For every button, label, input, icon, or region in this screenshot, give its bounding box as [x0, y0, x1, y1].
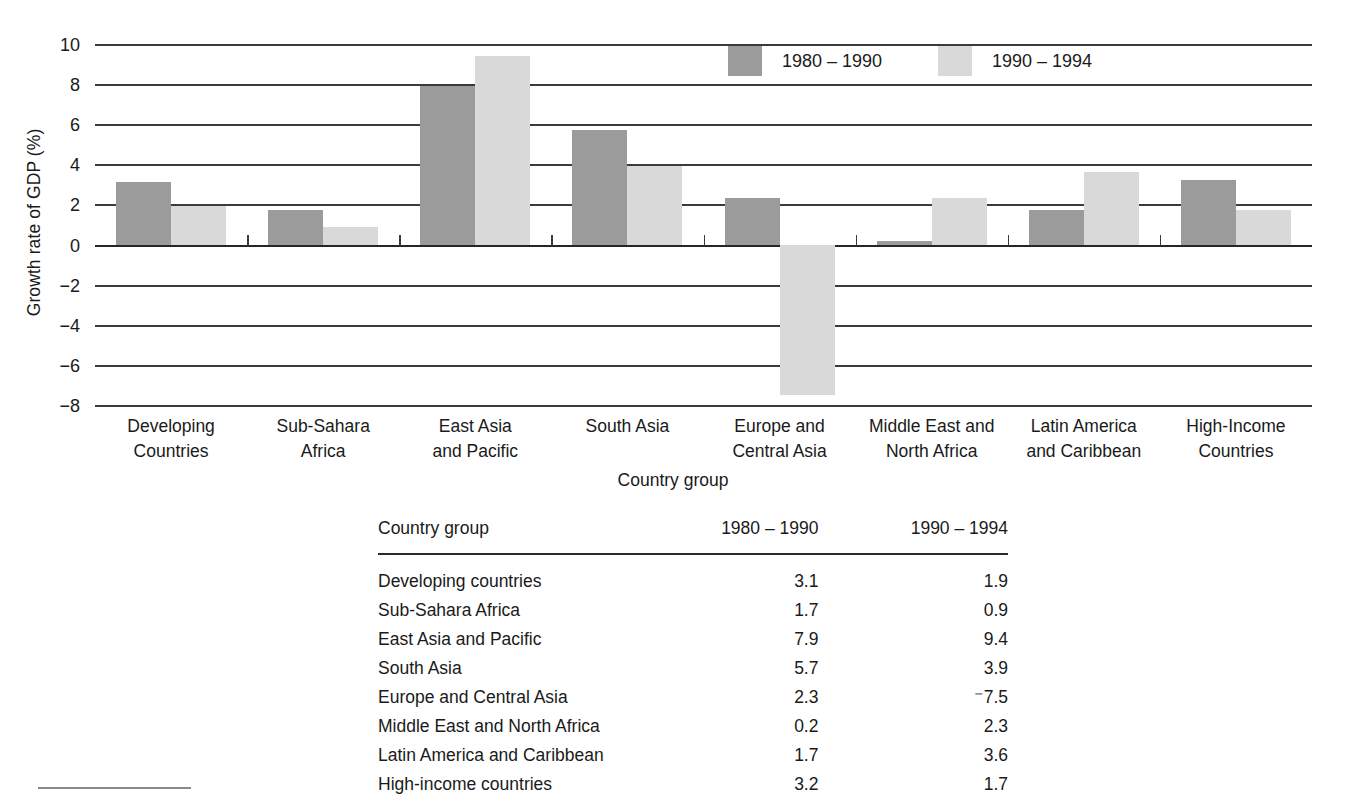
table-header-1990-1994: 1990 – 1994	[864, 518, 1008, 553]
x-axis-title: Country group	[0, 470, 1346, 491]
category-label-line: Middle East and	[856, 414, 1008, 439]
cell-1990-1994: 0.9	[864, 596, 1008, 625]
table-header-1980-1990: 1980 – 1990	[657, 518, 865, 553]
bar-series2	[1236, 210, 1291, 244]
bar-series1	[420, 86, 475, 244]
cell-country-group: Sub-Sahara Africa	[378, 596, 657, 625]
table-body: Developing countries3.11.9Sub-Sahara Afr…	[378, 555, 1008, 799]
bar-series2	[171, 206, 226, 244]
category-label-line: Central Asia	[704, 439, 856, 464]
category-label-line: High-Income	[1160, 414, 1312, 439]
cell-country-group: Latin America and Caribbean	[378, 741, 657, 770]
x-axis-tick	[856, 235, 858, 246]
bar-series2	[932, 198, 987, 244]
cell-1990-1994: 3.9	[864, 654, 1008, 683]
x-category-label-8: High-IncomeCountries	[1160, 414, 1312, 464]
category-label-line: Countries	[95, 439, 247, 464]
cell-country-group: East Asia and Pacific	[378, 625, 657, 654]
bar-series2	[780, 245, 835, 395]
bar-series1	[877, 241, 932, 245]
y-tick-label: 4	[26, 156, 80, 174]
category-label-line: Africa	[247, 439, 399, 464]
legend-label-1: 1980 – 1990	[782, 51, 882, 72]
category-label-line: Countries	[1160, 439, 1312, 464]
y-tick-label: 6	[26, 116, 80, 134]
category-label-line: Developing	[95, 414, 247, 439]
gridline	[95, 325, 1312, 327]
cell-country-group: Developing countries	[378, 555, 657, 596]
table-row: South Asia5.73.9	[378, 654, 1008, 683]
bar-series1	[1181, 180, 1236, 244]
gdp-growth-data-table: Country group 1980 – 1990 1990 – 1994 De…	[378, 518, 1008, 799]
cell-1980-1990: 3.2	[657, 770, 865, 799]
cell-1980-1990: 1.7	[657, 741, 865, 770]
x-axis-tick	[1008, 235, 1010, 246]
x-axis-tick	[247, 235, 249, 246]
x-axis-tick	[704, 235, 706, 246]
footnote-rule	[38, 787, 191, 789]
x-category-label-3: East Asiaand Pacific	[399, 414, 551, 464]
y-tick-label: 0	[26, 237, 80, 255]
bar-series2	[475, 56, 530, 245]
table-row: Latin America and Caribbean1.73.6	[378, 741, 1008, 770]
x-category-label-5: Europe andCentral Asia	[704, 414, 856, 464]
category-label-line: North Africa	[856, 439, 1008, 464]
x-category-label-4: South Asia	[551, 414, 703, 439]
y-tick-label: −2	[26, 277, 80, 295]
cell-1990-1994: 1.9	[864, 555, 1008, 596]
legend-item-1: 1980 – 1990	[728, 44, 882, 78]
y-tick-label: −8	[26, 397, 80, 415]
cell-country-group: Europe and Central Asia	[378, 683, 657, 712]
cell-1990-1994: 3.6	[864, 741, 1008, 770]
x-category-label-6: Middle East andNorth Africa	[856, 414, 1008, 464]
category-label-line: Sub-Sahara	[247, 414, 399, 439]
category-label-line: East Asia	[399, 414, 551, 439]
table-header-country-group: Country group	[378, 518, 657, 553]
x-category-label-7: Latin Americaand Caribbean	[1008, 414, 1160, 464]
category-label-line: South Asia	[551, 414, 703, 439]
table-row: Middle East and North Africa0.22.3	[378, 712, 1008, 741]
table-row: Developing countries3.11.9	[378, 555, 1008, 596]
cell-1980-1990: 5.7	[657, 654, 865, 683]
x-axis-tick	[551, 235, 553, 246]
cell-country-group: Middle East and North Africa	[378, 712, 657, 741]
cell-1980-1990: 0.2	[657, 712, 865, 741]
table-row: Europe and Central Asia2.3⁻7.5	[378, 683, 1008, 712]
y-tick-label: −6	[26, 357, 80, 375]
legend-item-2: 1990 – 1994	[938, 44, 1092, 78]
table-header-row: Country group 1980 – 1990 1990 – 1994	[378, 518, 1008, 553]
bar-series2	[627, 166, 682, 244]
cell-country-group: High-income countries	[378, 770, 657, 799]
cell-1990-1994: 1.7	[864, 770, 1008, 799]
cell-1980-1990: 2.3	[657, 683, 865, 712]
chart-legend: 1980 – 19901990 – 1994	[0, 44, 1346, 78]
legend-swatch-1	[728, 46, 762, 76]
category-label-line: and Caribbean	[1008, 439, 1160, 464]
cell-1990-1994: ⁻7.5	[864, 683, 1008, 712]
bar-series1	[268, 210, 323, 244]
bar-series1	[725, 198, 780, 244]
bar-series1	[1029, 210, 1084, 244]
gridline	[95, 285, 1312, 287]
bar-series1	[572, 130, 627, 244]
y-tick-label: 2	[26, 196, 80, 214]
gdp-growth-bar-chart: Growth rate of GDP (%) 1086420−2−4−6−8 1…	[0, 0, 1346, 510]
legend-swatch-2	[938, 46, 972, 76]
cell-1990-1994: 2.3	[864, 712, 1008, 741]
category-label-line: and Pacific	[399, 439, 551, 464]
gridline	[95, 124, 1312, 126]
bar-series2	[323, 227, 378, 245]
gridline	[95, 365, 1312, 367]
category-label-line: Europe and	[704, 414, 856, 439]
y-tick-label: 8	[26, 76, 80, 94]
x-category-label-1: DevelopingCountries	[95, 414, 247, 464]
legend-label-2: 1990 – 1994	[992, 51, 1092, 72]
cell-country-group: South Asia	[378, 654, 657, 683]
category-label-line: Latin America	[1008, 414, 1160, 439]
x-category-label-2: Sub-SaharaAfrica	[247, 414, 399, 464]
cell-1980-1990: 1.7	[657, 596, 865, 625]
bar-series2	[1084, 172, 1139, 244]
table-row: Sub-Sahara Africa1.70.9	[378, 596, 1008, 625]
x-axis-tick	[1160, 235, 1162, 246]
plot-area	[95, 45, 1312, 406]
